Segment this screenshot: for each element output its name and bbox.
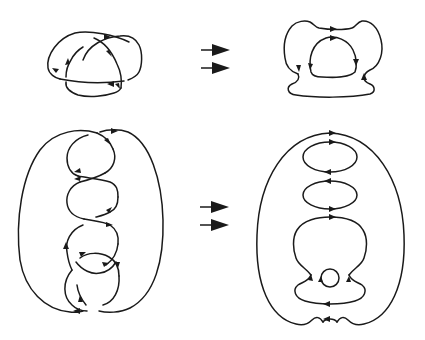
arrowhead-icon — [74, 176, 81, 181]
arrowhead-icon — [104, 138, 111, 145]
seifert-circles-bottom — [257, 130, 404, 325]
figure-canvas — [0, 0, 425, 340]
twisted-knot-diagram — [18, 128, 163, 314]
trefoil-knot-diagram — [48, 32, 142, 96]
arrowhead-icon — [111, 128, 118, 134]
arrowhead-icon — [329, 130, 336, 136]
arrowhead-icon — [52, 68, 59, 73]
arrowhead-icon — [323, 301, 330, 307]
arrowhead-icon — [361, 73, 367, 80]
arrowhead-icon — [296, 65, 301, 72]
arrowhead-icon — [74, 168, 81, 173]
arrowhead-icon — [324, 169, 331, 175]
arrowhead-icon — [329, 206, 336, 212]
arrowhead-icon — [329, 139, 336, 145]
arrowhead-icon — [115, 83, 120, 89]
arrowhead-icon — [308, 63, 313, 70]
transform-arrow-bottom — [200, 201, 229, 231]
arrowhead-icon — [330, 35, 337, 41]
arrowhead-icon — [353, 59, 359, 66]
arrowhead-icon — [63, 242, 69, 249]
arrowhead-icon — [324, 178, 331, 184]
seifert-circles-top — [284, 21, 382, 97]
arrowhead-icon — [330, 26, 337, 32]
arrowhead-icon — [329, 214, 336, 220]
transform-arrow-top — [201, 44, 230, 74]
